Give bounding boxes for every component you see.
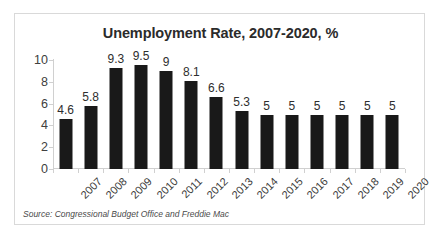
bar-value-label: 9.3 <box>108 52 125 66</box>
plot-area: 0246810 4.65.89.39.598.16.65.3555555 <box>53 60 405 169</box>
source-note: Source: Congressional Budget Office and … <box>23 209 229 219</box>
bar-value-label: 9.5 <box>133 49 150 63</box>
chart-frame: Unemployment Rate, 2007-2020, % 0246810 … <box>14 13 425 225</box>
x-category-label: 2016 <box>305 175 331 201</box>
bar-value-label: 5 <box>263 99 270 113</box>
bar[interactable] <box>84 106 97 169</box>
bar-slot: 5 <box>380 60 405 169</box>
x-category-label: 2010 <box>154 175 180 201</box>
bar-slot: 5.3 <box>229 60 254 169</box>
bar-value-label: 5 <box>289 99 296 113</box>
y-tick-label: 2 <box>41 140 48 154</box>
x-category-label: 2019 <box>380 175 406 201</box>
x-category-label: 2012 <box>204 175 230 201</box>
bar-slot: 6.6 <box>204 60 229 169</box>
bar-slot: 5 <box>330 60 355 169</box>
bar-slot: 9.5 <box>128 60 153 169</box>
chart-title: Unemployment Rate, 2007-2020, % <box>15 25 426 41</box>
x-category-label: 2018 <box>355 175 381 201</box>
bar-value-label: 4.6 <box>57 103 74 117</box>
bar-value-label: 5.3 <box>233 95 250 109</box>
bar[interactable] <box>59 119 72 169</box>
bar-slot: 5 <box>304 60 329 169</box>
x-category-label: 2014 <box>254 175 280 201</box>
y-tick-label: 10 <box>34 53 48 67</box>
bar[interactable] <box>210 97 223 169</box>
bar-slot: 5.8 <box>78 60 103 169</box>
bar-value-label: 5 <box>314 99 321 113</box>
bar-slot: 5 <box>279 60 304 169</box>
bar-slot: 4.6 <box>53 60 78 169</box>
bar-value-label: 6.6 <box>208 81 225 95</box>
bar-slot: 9.3 <box>103 60 128 169</box>
x-category-label: 2009 <box>129 175 155 201</box>
y-tick-label: 6 <box>41 97 48 111</box>
bar-value-label: 9 <box>163 55 170 69</box>
x-tick-mark <box>405 169 406 173</box>
bar[interactable] <box>109 68 122 169</box>
bar-series: 4.65.89.39.598.16.65.3555555 <box>53 60 405 169</box>
bar[interactable] <box>160 71 173 169</box>
bar-value-label: 5.8 <box>82 90 99 104</box>
y-tick-label: 0 <box>41 162 48 176</box>
x-category-label: 2015 <box>279 175 305 201</box>
y-tick-label: 4 <box>41 118 48 132</box>
bar-value-label: 8.1 <box>183 65 200 79</box>
bar-value-label: 5 <box>389 99 396 113</box>
bar[interactable] <box>310 115 323 170</box>
bar[interactable] <box>336 115 349 170</box>
x-category-label: 2007 <box>78 175 104 201</box>
bar-value-label: 5 <box>339 99 346 113</box>
bar[interactable] <box>185 81 198 169</box>
bar[interactable] <box>260 115 273 170</box>
x-category-label: 2020 <box>405 175 431 201</box>
bar[interactable] <box>235 111 248 169</box>
bar-value-label: 5 <box>364 99 371 113</box>
bar[interactable] <box>386 115 399 170</box>
bar[interactable] <box>285 115 298 170</box>
x-category-label: 2013 <box>229 175 255 201</box>
x-category-label: 2017 <box>330 175 356 201</box>
x-category-label: 2008 <box>103 175 129 201</box>
y-tick-label: 8 <box>41 75 48 89</box>
x-category-label: 2011 <box>179 175 204 200</box>
bar[interactable] <box>361 115 374 170</box>
bar-slot: 5 <box>355 60 380 169</box>
bar-slot: 9 <box>154 60 179 169</box>
bar-slot: 8.1 <box>179 60 204 169</box>
bar-slot: 5 <box>254 60 279 169</box>
bar[interactable] <box>134 65 147 169</box>
